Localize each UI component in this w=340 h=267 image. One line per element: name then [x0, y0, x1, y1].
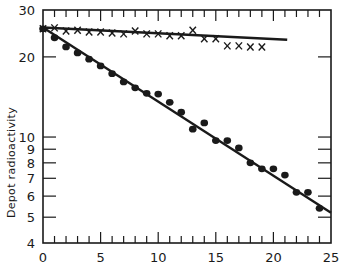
dot-marker — [189, 126, 197, 133]
fit-line-dots — [43, 27, 331, 212]
dot-marker — [131, 84, 139, 91]
dot-marker — [51, 34, 59, 41]
cross-marker — [236, 42, 242, 49]
y-tick-label: 5 — [27, 210, 35, 225]
x-tick-label: 10 — [150, 250, 167, 265]
y-tick-label: 30 — [18, 3, 35, 18]
cross-marker — [224, 42, 230, 49]
y-tick-label: 7 — [27, 171, 35, 186]
dot-marker — [74, 50, 82, 57]
dot-marker — [62, 44, 70, 51]
x-tick-label: 5 — [96, 250, 104, 265]
dot-marker — [97, 63, 105, 70]
dot-marker — [200, 120, 208, 127]
dot-marker — [235, 145, 243, 152]
x-tick-label: 20 — [265, 250, 282, 265]
cross-marker — [259, 43, 265, 50]
dot-marker — [39, 25, 47, 32]
dot-marker — [247, 159, 255, 166]
y-tick-label: 20 — [18, 50, 35, 65]
x-tick-label: 25 — [323, 250, 340, 265]
x-tick-labels: 0510152025 — [39, 250, 339, 265]
cross-marker — [190, 27, 196, 34]
dot-marker — [166, 99, 174, 106]
dot-marker — [224, 137, 232, 144]
dot-marker — [316, 205, 324, 212]
fit-line-crosses — [43, 27, 287, 39]
dot-marker — [293, 189, 301, 196]
dot-marker — [304, 189, 312, 196]
dot-marker — [270, 165, 278, 172]
dot-marker — [120, 79, 128, 86]
y-tick-label: 6 — [27, 189, 35, 204]
dot-marker — [85, 56, 93, 63]
dot-marker — [154, 91, 162, 98]
plot-frame — [43, 10, 331, 243]
chart: 456789102030 0510152025 Depot radioactiv… — [0, 0, 340, 267]
y-tick-label: 10 — [18, 130, 35, 145]
y-tick-label: 4 — [27, 236, 35, 251]
cross-marker — [247, 43, 253, 50]
x-tick-label: 0 — [39, 250, 47, 265]
axis-ticks — [43, 10, 331, 243]
dot-marker — [177, 109, 185, 116]
dot-marker — [212, 137, 220, 144]
dot-marker — [108, 70, 116, 77]
dot-marker — [281, 172, 289, 179]
fit-lines — [43, 27, 331, 212]
x-tick-label: 15 — [208, 250, 225, 265]
plot-border — [43, 10, 331, 243]
y-tick-labels: 456789102030 — [18, 3, 35, 251]
y-tick-label: 8 — [27, 156, 35, 171]
dot-marker — [143, 90, 151, 97]
y-axis-title: Depot radioactivity — [5, 107, 18, 218]
dot-marker — [258, 165, 266, 172]
